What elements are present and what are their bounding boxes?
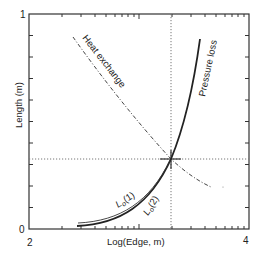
heat-exchange-curve <box>73 37 211 187</box>
y-min-label: 0 <box>19 224 25 235</box>
chart-figure: Heat exchange Pressure loss Lo(1) Lo(2) … <box>0 0 263 256</box>
y-axis-title: Length (m) <box>13 82 24 128</box>
x-min-label: 2 <box>27 237 33 248</box>
y-max-label: 1 <box>20 9 26 20</box>
heat-exchange-label: Heat exchange <box>80 32 128 89</box>
x-axis-title: Log(Edge, m) <box>107 236 165 247</box>
y-ticks <box>29 36 249 208</box>
heat-exchange-end-dot <box>222 186 223 187</box>
x-max-label: 4 <box>243 235 249 246</box>
